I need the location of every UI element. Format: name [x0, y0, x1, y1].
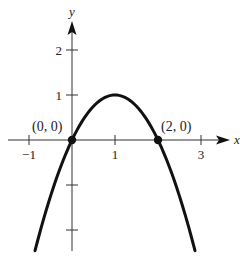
y-tick-label: 1	[56, 88, 63, 103]
intercept-dot	[154, 136, 162, 144]
intercept-dot	[68, 136, 76, 144]
x-axis: x −113	[8, 132, 240, 162]
x-tick-label: 3	[198, 147, 205, 162]
point-label-2-0: (2, 0)	[161, 119, 192, 135]
point-label-origin: (0, 0)	[32, 119, 63, 135]
parabola-graph: x −113 y 12 (0, 0) (2, 0)	[0, 0, 240, 267]
x-tick-label: 1	[112, 147, 119, 162]
x-axis-label: x	[233, 132, 240, 147]
x-tick-label: −1	[22, 147, 36, 162]
y-axis-label: y	[67, 4, 75, 19]
y-tick-label: 2	[56, 43, 63, 58]
